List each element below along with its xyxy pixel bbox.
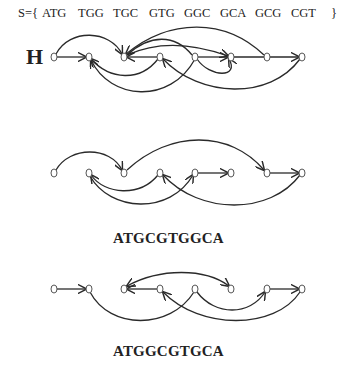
graph-3-sequence: ATGGCGTGCA [113,343,224,360]
graph-2-sequence: ATGCGTGGCA [113,230,224,247]
graph-3-nodes [51,285,305,293]
graph-h-nodes [51,53,305,61]
graphs-canvas [0,0,342,375]
graph-h [56,27,300,92]
graph-3 [57,273,300,321]
graph-2-nodes [51,169,305,177]
graph-2 [56,140,300,205]
